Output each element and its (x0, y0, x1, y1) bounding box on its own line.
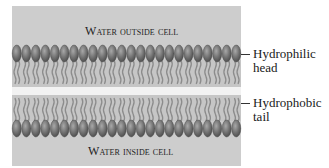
hydrophobic-label-line2: tail (253, 110, 322, 124)
phospholipid-head (31, 45, 40, 62)
phospholipid-head (127, 45, 136, 62)
phospholipid-head (193, 120, 202, 137)
phospholipid-head (31, 120, 40, 137)
phospholipid-head (155, 120, 164, 137)
hydrophilic-label-line2: head (253, 61, 316, 75)
phospholipid-head (213, 45, 222, 62)
phospholipid-head (222, 120, 231, 137)
phospholipid-head (136, 120, 145, 137)
hydrophilic-label-line1: Hydrophilic (253, 47, 316, 61)
phospholipid-head (146, 120, 155, 137)
hydrophobic-tail-label: Hydrophobic tail (253, 96, 322, 124)
phospholipid-head (98, 45, 107, 62)
phospholipid-head (117, 120, 126, 137)
phospholipid-head (41, 120, 50, 137)
phospholipid-head (98, 120, 107, 137)
phospholipid-head (50, 45, 59, 62)
phospholipid-head (203, 120, 212, 137)
phospholipid-head (155, 45, 164, 62)
phospholipid-head (117, 45, 126, 62)
phospholipid-head (22, 120, 31, 137)
phospholipid-head (232, 45, 241, 62)
phospholipid-head (174, 120, 183, 137)
phospholipid-head (222, 45, 231, 62)
hydrophobic-label-line1: Hydrophobic (253, 96, 322, 110)
phospholipid-head (146, 45, 155, 62)
phospholipid-head (108, 45, 117, 62)
phospholipid-head (203, 45, 212, 62)
phospholipid-head (127, 120, 136, 137)
bilayer-midplane-gap (12, 87, 241, 95)
phospholipid-head (69, 45, 78, 62)
phospholipid-head (79, 120, 88, 137)
phospholipid-head (69, 120, 78, 137)
phospholipid-head (60, 120, 69, 137)
phospholipid-head (89, 45, 98, 62)
phospholipid-head (184, 45, 193, 62)
phospholipid-head (165, 120, 174, 137)
phospholipid-head (79, 45, 88, 62)
phospholipid-head (50, 120, 59, 137)
phospholipid-head (174, 45, 183, 62)
phospholipid-head (108, 120, 117, 137)
bilayer-diagram: Water outside cell Water inside cell Hyd… (0, 0, 329, 168)
phospholipid-head (22, 45, 31, 62)
phospholipid-head (12, 120, 21, 137)
head-leader-line (241, 54, 250, 55)
phospholipid-head (60, 45, 69, 62)
tail-leader-line (241, 103, 250, 104)
phospholipid-head (12, 45, 21, 62)
water-outside-label: Water outside cell (85, 24, 178, 39)
phospholipid-head (232, 120, 241, 137)
hydrophilic-head-label: Hydrophilic head (253, 47, 316, 75)
phospholipid-head (193, 45, 202, 62)
phospholipid-head (184, 120, 193, 137)
water-inside-label: Water inside cell (88, 144, 173, 159)
phospholipid-head (213, 120, 222, 137)
phospholipid-head (89, 120, 98, 137)
phospholipid-head (136, 45, 145, 62)
phospholipid-head (165, 45, 174, 62)
phospholipid-head (41, 45, 50, 62)
